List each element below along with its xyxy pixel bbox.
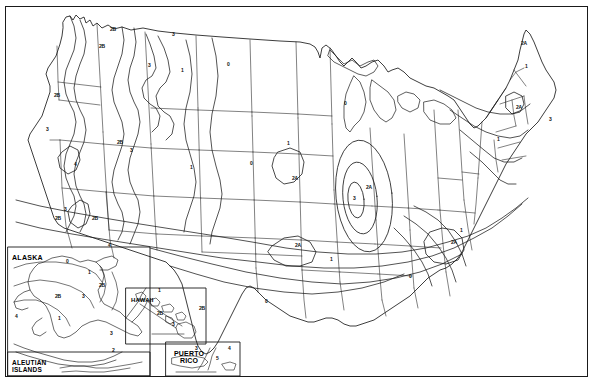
zone-label: 1 [525,64,528,69]
zone-label: 0 [66,259,69,264]
zone-label: 2 [112,348,115,353]
zone-label: 3 [46,127,49,132]
zone-label: 2A [451,240,457,245]
alaska-contours [14,262,118,326]
zone-label: 0 [265,299,268,304]
zone-label: 2A [521,41,527,46]
zone-label: 2A [516,105,522,110]
zone-label: 1 [287,141,290,146]
climate-contours [16,16,530,294]
puerto-rico-inset-label: PUERTO RICO [174,350,204,365]
zone-label: 2B [55,294,61,299]
zone-label: 0 [409,274,412,279]
usa-climate-zone-map [0,0,594,383]
state-boundaries [50,24,528,318]
zone-label: 2B [99,44,105,49]
zone-label: 0 [344,101,347,106]
zone-label: 3 [549,117,552,122]
zone-label: 2B [92,216,98,221]
conus-outline [28,15,556,354]
zone-label: 2B [117,140,123,145]
zone-label: 2B [110,27,116,32]
hawaii-contours [140,300,184,334]
zone-label: 2A [366,185,372,190]
zone-label: 1 [190,165,193,170]
zone-label: 3 [172,322,175,327]
zone-label: 3 [353,196,356,201]
zone-label: 3 [148,63,151,68]
zone-label: 4 [74,162,77,167]
zone-label: 2B [157,311,163,316]
zone-label: 2B [55,216,61,221]
zone-label: 0 [227,62,230,67]
zone-label: 2A [292,176,298,181]
zone-label: 1 [497,137,500,142]
alaska-inset-label: ALASKA [12,254,43,261]
map-page: 2B 3 2B 0 1 0 3 2B 3 4 1 0 2A 1 2A 3 2B … [0,0,594,383]
zone-label: 1 [181,68,184,73]
zone-label: 4 [15,314,18,319]
zone-label: 3 [130,148,133,153]
zone-label: 3 [82,294,85,299]
zone-label: 2B [199,306,205,311]
aleutian-islands-inset-label: ALEUTIAN ISLANDS [12,360,46,374]
zone-label: 1 [158,288,161,293]
alaska-landmass [14,256,148,366]
zone-label: 3 [172,32,175,37]
zone-label: 1 [460,228,463,233]
zone-label: 3 [110,331,113,336]
zone-label: 1 [58,316,61,321]
zone-label: 4 [108,243,111,248]
aleutian-chain [60,362,142,372]
great-lakes [328,50,456,132]
zone-label: 5 [216,356,219,361]
zone-label: 1 [88,270,91,275]
hawaii-inset-label: HAWAII [131,297,154,303]
zone-label: 2B [99,283,105,288]
zone-label: 2B [54,93,60,98]
zone-label: 1 [330,257,333,262]
zone-label: 3 [64,207,67,212]
zone-label: 0 [250,161,253,166]
zone-label: 4 [228,346,231,351]
zone-label: 2A [295,243,301,248]
